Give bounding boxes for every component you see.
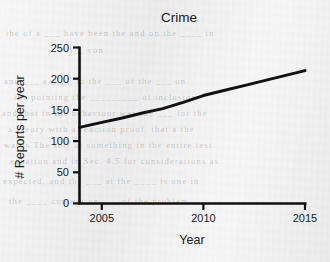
x-tick-label-2015: 2015 <box>293 212 317 224</box>
y-axis-label: # Reports per year <box>13 75 27 179</box>
line-chart-plot: Crime # Reports per year Year 250 200 15… <box>0 0 330 262</box>
y-tick-label-0: 0 <box>63 197 69 209</box>
y-tick-label-50: 50 <box>57 166 69 178</box>
data-line-reports-per-year <box>80 71 306 128</box>
y-tick-label-150: 150 <box>51 104 69 116</box>
chart-title: Crime <box>161 10 197 25</box>
y-tick-label-200: 200 <box>51 73 69 85</box>
y-tick-label-250: 250 <box>51 42 69 54</box>
x-tick-label-2005: 2005 <box>90 212 114 224</box>
y-axis-tick-labels: 250 200 150 100 50 0 <box>51 42 69 210</box>
y-tick-label-100: 100 <box>51 135 69 147</box>
x-axis-label: Year <box>179 233 204 247</box>
x-tick-label-2010: 2010 <box>191 212 215 224</box>
axis-spines <box>80 47 307 204</box>
x-axis-tick-labels: 2005 2010 2015 <box>90 212 318 224</box>
chart-figure: the of a ___ have been the and on the __… <box>0 0 330 262</box>
